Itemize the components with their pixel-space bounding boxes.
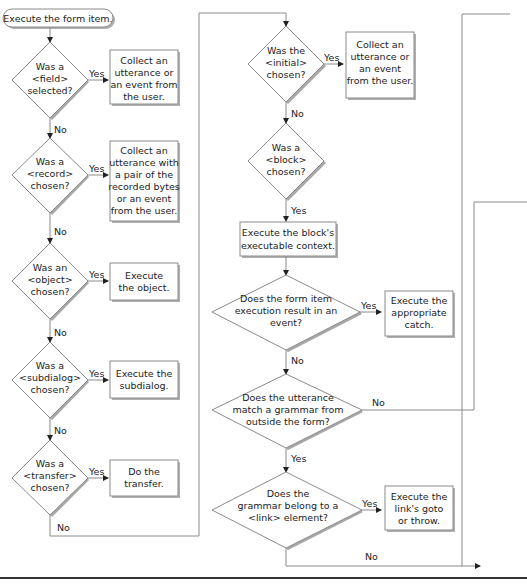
svg-text:chosen?: chosen?	[31, 286, 70, 297]
action-execute-object: Execute the object.	[110, 263, 180, 302]
yes-label: Yes	[290, 453, 306, 464]
yes-label: Yes	[88, 68, 104, 79]
action-collect-recording: Collect an utterance with a pair of the …	[108, 141, 180, 223]
svg-text:appropriate: appropriate	[391, 307, 447, 318]
yes-label: Yes	[88, 163, 104, 174]
svg-text:Do the: Do the	[128, 466, 160, 477]
svg-text:Collect an: Collect an	[120, 55, 167, 66]
decision-utterance-match: Does the utterance match a grammar from …	[212, 374, 362, 449]
yes-label: Yes	[88, 466, 104, 477]
svg-text:<block>: <block>	[265, 154, 306, 165]
no-label: No	[54, 327, 67, 338]
svg-text:an event from: an event from	[110, 79, 177, 90]
svg-text:catch.: catch.	[404, 319, 433, 330]
svg-text:the user.: the user.	[123, 91, 164, 102]
svg-text:Was an: Was an	[33, 262, 67, 273]
svg-text:<field>: <field>	[32, 73, 68, 84]
yes-label: Yes	[361, 498, 377, 509]
no-connector	[286, 548, 480, 566]
svg-text:event?: event?	[270, 317, 302, 328]
action-do-transfer: Do the transfer.	[110, 460, 180, 498]
svg-text:selected?: selected?	[27, 85, 72, 96]
no-label: No	[291, 355, 304, 366]
decision-subdialog-chosen: Was a <subdialog> chosen?	[12, 342, 88, 419]
decision-block-chosen: Was a <block> chosen?	[248, 123, 325, 200]
svg-text:chosen?: chosen?	[267, 69, 306, 80]
svg-text:Was a: Was a	[36, 61, 64, 72]
action-execute-block: Execute the block's executable context.	[240, 222, 338, 258]
svg-text:Was a: Was a	[36, 458, 64, 469]
no-label: No	[372, 397, 385, 408]
yes-label: Yes	[88, 368, 104, 379]
svg-text:transfer.: transfer.	[124, 478, 164, 489]
no-label: No	[291, 108, 304, 119]
svg-text:a pair of the: a pair of the	[115, 169, 173, 180]
svg-text:grammar belong to a: grammar belong to a	[238, 500, 339, 511]
svg-text:match a grammar from: match a grammar from	[232, 404, 343, 415]
svg-text:recorded bytes: recorded bytes	[108, 181, 179, 192]
svg-text:<object>: <object>	[27, 274, 72, 285]
svg-text:Was a: Was a	[36, 156, 64, 167]
svg-text:<link> element?: <link> element?	[248, 512, 328, 523]
svg-text:Execute the block's: Execute the block's	[242, 227, 334, 238]
svg-text:utterance with: utterance with	[109, 157, 178, 168]
svg-text:<subdialog>: <subdialog>	[19, 372, 81, 383]
no-label: No	[54, 425, 67, 436]
svg-text:chosen?: chosen?	[267, 166, 306, 177]
svg-text:Was a: Was a	[272, 142, 300, 153]
svg-text:<transfer>: <transfer>	[23, 470, 76, 481]
svg-text:executable context.: executable context.	[241, 240, 335, 251]
svg-text:Execute the: Execute the	[391, 295, 448, 306]
svg-text:from the user.: from the user.	[111, 205, 178, 216]
svg-text:or an event: or an event	[117, 193, 172, 204]
action-execute-catch: Execute the appropriate catch.	[385, 291, 455, 338]
svg-text:from the user.: from the user.	[347, 75, 414, 86]
svg-text:Collect an: Collect an	[120, 145, 167, 156]
svg-text:chosen?: chosen?	[31, 482, 70, 493]
no-label: No	[54, 226, 67, 237]
svg-text:an event: an event	[359, 63, 401, 74]
decision-transfer-chosen: Was a <transfer> chosen?	[12, 440, 88, 516]
svg-text:execution result in an: execution result in an	[235, 305, 338, 316]
svg-text:chosen?: chosen?	[31, 384, 70, 395]
decision-object-chosen: Was an <object> chosen?	[12, 243, 88, 320]
svg-text:Does the: Does the	[267, 488, 310, 499]
svg-text:Execute the: Execute the	[116, 368, 173, 379]
return-connector	[462, 14, 510, 566]
svg-text:Execute the: Execute the	[391, 491, 448, 502]
svg-text:Does the form item: Does the form item	[240, 293, 332, 304]
yes-label: Yes	[360, 300, 376, 311]
action-execute-link: Execute the link's goto or throw.	[385, 486, 455, 532]
decision-field-selected: Was a <field> selected?	[12, 42, 88, 119]
svg-text:Execute: Execute	[125, 270, 163, 281]
svg-text:the object.: the object.	[119, 282, 170, 293]
svg-text:<record>: <record>	[27, 168, 73, 179]
decision-record-chosen: Was a <record> chosen?	[12, 138, 88, 214]
decision-event-result: Does the form item execution result in a…	[212, 275, 361, 351]
no-label: No	[57, 522, 70, 533]
yes-label: Yes	[88, 269, 104, 280]
action-collect-initial: Collect an utterance or an event from th…	[346, 32, 416, 100]
svg-text:Collect an: Collect an	[356, 39, 403, 50]
svg-text:or throw.: or throw.	[398, 515, 440, 526]
svg-text:utterance or: utterance or	[115, 67, 174, 78]
svg-text:subdialog.: subdialog.	[120, 380, 169, 391]
yes-label: Yes	[323, 52, 339, 63]
action-collect-utterance: Collect an utterance or an event from th…	[110, 50, 180, 106]
svg-text:Was the: Was the	[267, 45, 305, 56]
yes-label: Yes	[290, 205, 306, 216]
decision-link-element: Does the grammar belong to a <link> elem…	[212, 472, 362, 549]
svg-text:Does the utterance: Does the utterance	[242, 392, 334, 403]
no-label: No	[54, 124, 67, 135]
flowchart: Execute the form item. Was a <field> sel…	[0, 0, 527, 584]
svg-text:chosen?: chosen?	[31, 180, 70, 191]
start-label: Execute the form item.	[3, 13, 112, 24]
no-label: No	[365, 551, 378, 562]
svg-text:<initial>: <initial>	[265, 57, 307, 68]
svg-text:Was a: Was a	[36, 360, 64, 371]
svg-text:utterance or: utterance or	[351, 51, 410, 62]
svg-text:link's goto: link's goto	[395, 503, 444, 514]
action-execute-subdialog: Execute the subdialog.	[110, 361, 180, 400]
svg-text:outside the form?: outside the form?	[246, 416, 330, 427]
start-node: Execute the form item.	[3, 9, 115, 29]
